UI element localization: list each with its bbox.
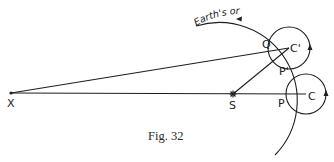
label-p: P [278, 97, 285, 110]
label-s: S [229, 99, 236, 112]
earth-orbit-arc [196, 22, 297, 155]
label-c-prime: C' [290, 42, 301, 55]
figure-caption: Fig. 32 [148, 129, 183, 143]
line-x-c [11, 93, 306, 94]
sun-star-icon [230, 91, 237, 98]
circle-c-prime-arrow-icon [308, 44, 313, 50]
line-x-c-prime [11, 48, 289, 93]
label-c: C [308, 90, 316, 103]
circle-c-arrow-icon [324, 90, 329, 96]
orbit-arrow-icon [236, 17, 242, 22]
point-x-marker [9, 91, 12, 94]
figure-32-diagram: Earth's orbit X S P C C' Q P' Fig. 32 [0, 0, 334, 162]
orbit-label: Earth's orbit [0, 0, 241, 28]
label-q: Q [262, 38, 271, 51]
label-p-prime: P' [279, 65, 289, 78]
label-x: X [7, 97, 15, 110]
